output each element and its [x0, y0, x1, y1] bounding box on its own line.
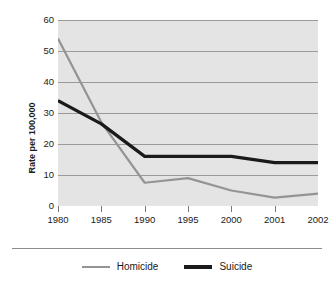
y-axis-tick-labels: 0102030405060 [34, 0, 54, 282]
y-axis-tick-10: 10 [34, 170, 54, 180]
chart-figure: Rate per 100,000 0102030405060 198019851… [0, 0, 334, 282]
legend-item-homicide: Homicide [82, 261, 159, 273]
series-line-homicide [58, 39, 318, 198]
y-axis-tick-60: 60 [34, 15, 54, 25]
homicide-line-swatch [82, 266, 110, 268]
x-axis-tick-2001: 2001 [255, 214, 295, 226]
x-axis-tick-1985: 1985 [81, 214, 121, 226]
plot-area [58, 20, 318, 206]
suicide-line-swatch [184, 265, 212, 269]
x-axis-tick-1995: 1995 [168, 214, 208, 226]
legend-separator-rule [12, 248, 322, 249]
series-lines [58, 39, 318, 198]
x-axis-tick-marks [58, 206, 318, 213]
y-axis-tick-20: 20 [34, 139, 54, 149]
series-line-suicide [58, 101, 318, 163]
y-axis-tick-50: 50 [34, 46, 54, 56]
x-axis-tick-1980: 1980 [38, 214, 78, 226]
plot-svg [58, 20, 318, 206]
chart-legend: Homicide Suicide [0, 258, 334, 276]
y-axis-tick-30: 30 [34, 108, 54, 118]
x-axis-tick-2002: 2002 [298, 214, 334, 226]
legend-label-suicide: Suicide [219, 261, 252, 273]
legend-label-homicide: Homicide [117, 261, 159, 273]
x-axis-tick-2000: 2000 [211, 214, 251, 226]
legend-item-suicide: Suicide [184, 261, 252, 273]
y-axis-tick-0: 0 [34, 201, 54, 211]
x-axis-tick-1990: 1990 [125, 214, 165, 226]
y-axis-tick-40: 40 [34, 77, 54, 87]
x-axis-tick-labels: 1980198519901995200020012002 [58, 214, 318, 228]
